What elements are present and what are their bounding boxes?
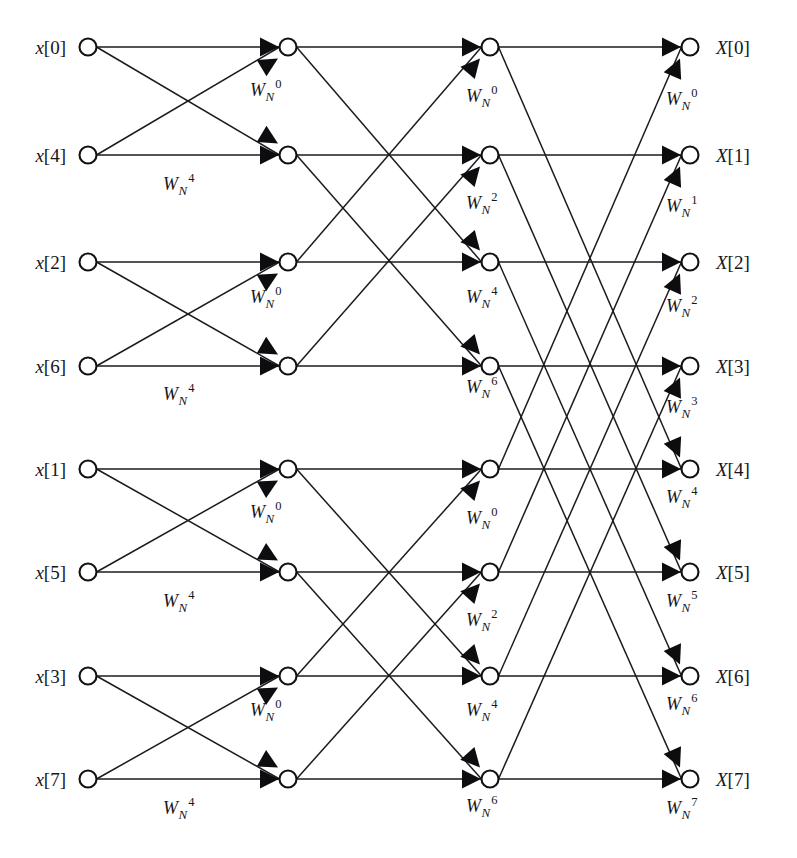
twiddle-exponent: 4 bbox=[691, 484, 698, 498]
input-label-row0: x[0] bbox=[34, 37, 66, 58]
twiddle-subscript: N bbox=[681, 98, 692, 113]
twiddle-label-stage3-row1: WN1 bbox=[666, 193, 697, 220]
twiddle-text-stage3-row4: WN4 bbox=[666, 484, 698, 511]
twiddle-exponent: 2 bbox=[491, 607, 497, 621]
twiddle-exponent: 1 bbox=[691, 193, 697, 207]
arrowhead-through-stage1-row6 bbox=[260, 667, 279, 686]
twiddle-base: W bbox=[163, 174, 180, 194]
twiddle-base: W bbox=[666, 694, 683, 714]
twiddle-text-stage1-row3: WN4 bbox=[163, 381, 195, 408]
arrowhead-cross-stage3-into-row3 bbox=[664, 378, 681, 399]
io-index: [2] bbox=[728, 252, 750, 273]
node-stage3-row6 bbox=[682, 668, 699, 685]
twiddle-exponent: 0 bbox=[275, 697, 281, 711]
twiddle-base: W bbox=[163, 384, 180, 404]
arrowhead-cross-stage3-into-row4 bbox=[664, 436, 681, 457]
arrowhead-through-stage1-row3 bbox=[260, 357, 279, 376]
output-label-row0: X[0] bbox=[715, 37, 750, 58]
input-label-row3: x[6] bbox=[34, 356, 66, 377]
arrowhead-cross-stage2-into-row7 bbox=[460, 747, 480, 767]
arrowhead-through-stage2-row7 bbox=[462, 770, 481, 789]
arrowhead-cross-stage3-into-row1 bbox=[664, 167, 681, 188]
twiddle-exponent: 0 bbox=[491, 505, 497, 519]
twiddle-base: W bbox=[466, 377, 483, 397]
node-stage1-row3 bbox=[280, 358, 297, 375]
twiddle-base: W bbox=[163, 591, 180, 611]
twiddle-subscript: N bbox=[178, 183, 189, 198]
twiddle-exponent: 3 bbox=[691, 394, 697, 408]
arrowhead-cross-stage2-into-row4 bbox=[460, 481, 480, 501]
node-stage1-row5 bbox=[280, 564, 297, 581]
arrowhead-cross-stage1-into-row5 bbox=[257, 543, 278, 561]
twiddle-text-stage3-row7: WN7 bbox=[666, 795, 697, 822]
arrowhead-cross-stage1-into-row4 bbox=[257, 481, 278, 499]
twiddle-label-stage3-row2: WN2 bbox=[666, 293, 697, 320]
fft-butterfly-diagram: x[0]x[4]x[2]x[6]x[1]x[5]x[3]x[7]X[0]X[1]… bbox=[0, 0, 797, 858]
io-index: [1] bbox=[44, 459, 66, 480]
twiddle-base: W bbox=[250, 502, 267, 522]
input-node-row1 bbox=[80, 147, 97, 164]
twiddle-exponent: 0 bbox=[275, 77, 281, 91]
twiddle-base: W bbox=[250, 287, 267, 307]
twiddle-text-stage3-row2: WN2 bbox=[666, 293, 697, 320]
io-index: [0] bbox=[728, 37, 750, 58]
node-stage3-row4 bbox=[682, 461, 699, 478]
twiddle-text-stage1-row1: WN4 bbox=[163, 171, 195, 198]
twiddle-label-stage3-row5: WN5 bbox=[666, 588, 697, 615]
twiddle-exponent: 2 bbox=[491, 190, 497, 204]
twiddle-label-stage3-row7: WN7 bbox=[666, 795, 697, 822]
twiddle-base: W bbox=[466, 193, 483, 213]
node-stage2-row3 bbox=[482, 358, 499, 375]
arrowhead-through-stage2-row1 bbox=[462, 146, 481, 165]
node-stage3-row5 bbox=[682, 564, 699, 581]
node-stage2-row4 bbox=[482, 461, 499, 478]
twiddle-text-stage3-row6: WN6 bbox=[666, 691, 697, 718]
io-index: [4] bbox=[728, 459, 750, 480]
twiddle-label-stage3-row0: WN0 bbox=[666, 86, 697, 113]
arrowhead-cross-stage1-into-row1 bbox=[257, 126, 278, 144]
arrowhead-cross-stage1-into-row7 bbox=[257, 750, 278, 768]
twiddle-text-stage2-row1: WN2 bbox=[466, 190, 497, 217]
arrowhead-cross-stage2-into-row2 bbox=[460, 230, 480, 251]
twiddle-text-stage2-row2: WN4 bbox=[466, 284, 498, 311]
input-node-row4 bbox=[80, 461, 97, 478]
io-index: [7] bbox=[728, 769, 750, 790]
io-index: [4] bbox=[44, 145, 66, 166]
twiddle-text-stage3-row5: WN5 bbox=[666, 588, 697, 615]
twiddle-label-stage2-row7: WN6 bbox=[466, 793, 497, 820]
twiddle-text-stage2-row6: WN4 bbox=[466, 697, 498, 724]
node-stage2-row1 bbox=[482, 147, 499, 164]
node-stage1-row4 bbox=[280, 461, 297, 478]
input-label-row1: x[4] bbox=[34, 145, 66, 166]
arrowhead-through-stage2-row2 bbox=[462, 253, 481, 272]
twiddle-label-stage1-row3: WN4 bbox=[163, 381, 195, 408]
node-stage2-row6 bbox=[482, 668, 499, 685]
arrowhead-through-stage2-row4 bbox=[462, 460, 481, 479]
twiddle-text-stage3-row0: WN0 bbox=[666, 86, 697, 113]
twiddle-exponent: 4 bbox=[491, 697, 498, 711]
twiddle-subscript: N bbox=[265, 296, 276, 311]
twiddle-base: W bbox=[666, 89, 683, 109]
node-stage2-row7 bbox=[482, 771, 499, 788]
arrowhead-cross-stage3-into-row0 bbox=[664, 59, 681, 80]
arrowhead-through-stage2-row3 bbox=[462, 357, 481, 376]
twiddle-subscript: N bbox=[265, 89, 276, 104]
io-index: [3] bbox=[728, 356, 750, 377]
twiddle-text-stage1-row5: WN4 bbox=[163, 588, 195, 615]
twiddle-exponent: 0 bbox=[275, 284, 281, 298]
twiddle-label-stage2-row1: WN2 bbox=[466, 190, 497, 217]
twiddle-exponent: 2 bbox=[691, 293, 697, 307]
twiddle-subscript: N bbox=[681, 305, 692, 320]
output-label-row3: X[3] bbox=[715, 356, 750, 377]
twiddle-subscript: N bbox=[681, 205, 692, 220]
twiddle-label-stage3-row6: WN6 bbox=[666, 691, 697, 718]
input-label-row4: x[1] bbox=[34, 459, 66, 480]
input-label-row6: x[3] bbox=[34, 666, 66, 687]
node-stage1-row1 bbox=[280, 147, 297, 164]
arrowhead-through-stage2-row0 bbox=[462, 38, 481, 57]
node-stage3-row7 bbox=[682, 771, 699, 788]
node-stage3-row2 bbox=[682, 254, 699, 271]
arrowhead-through-stage2-row6 bbox=[462, 667, 481, 686]
twiddle-text-stage3-row3: WN3 bbox=[666, 394, 697, 421]
twiddle-subscript: N bbox=[481, 296, 492, 311]
